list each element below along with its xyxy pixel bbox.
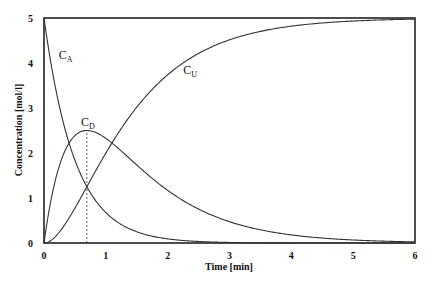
- annotations: CACDCU: [59, 48, 197, 244]
- curves: [44, 18, 415, 243]
- series-c-a-line: [44, 18, 415, 243]
- y-tick-label: 1: [28, 193, 33, 204]
- y-axis-label: Concentration [mol/l]: [13, 84, 24, 177]
- series-label-c-u: CU: [183, 63, 197, 79]
- y-tick-label: 4: [28, 58, 33, 69]
- series-c-d-line: [44, 131, 415, 243]
- y-tick-label: 5: [28, 13, 33, 24]
- x-tick-label: 0: [42, 250, 47, 261]
- x-tick-label: 6: [413, 250, 418, 261]
- x-tick-label: 5: [351, 250, 356, 261]
- x-axis-label: Time [min]: [205, 261, 253, 272]
- x-tick-labels: 0123456: [42, 250, 418, 261]
- x-tick-label: 4: [289, 250, 294, 261]
- y-tick-label: 3: [28, 103, 33, 114]
- plot-border: [44, 18, 415, 243]
- y-tick-label: 0: [28, 238, 33, 249]
- plot-frame: [44, 18, 415, 243]
- series-c-u-line: [44, 19, 415, 243]
- series-label-c-d: CD: [81, 115, 95, 131]
- x-tick-label: 1: [103, 250, 108, 261]
- chart: CACDCU 0123456 012345 Time [min] Concent…: [0, 0, 435, 287]
- y-tick-labels: 012345: [28, 13, 33, 249]
- x-tick-label: 2: [165, 250, 170, 261]
- y-tick-label: 2: [28, 148, 33, 159]
- series-label-c-a: CA: [59, 48, 73, 64]
- x-tick-label: 3: [227, 250, 232, 261]
